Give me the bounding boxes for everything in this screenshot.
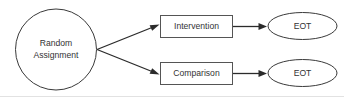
node-eot-comparison: EOT bbox=[268, 60, 337, 87]
node-eot-intervention: EOT bbox=[268, 13, 337, 40]
flow-diagram: Random Assignment Intervention Compariso… bbox=[0, 0, 344, 99]
eot-bottom-label: EOT bbox=[294, 68, 312, 78]
edge-random-to-comparison bbox=[97, 50, 160, 75]
intervention-label: Intervention bbox=[174, 21, 219, 31]
node-intervention: Intervention bbox=[161, 16, 233, 38]
edge-comparison-to-eot bbox=[233, 70, 267, 77]
edge-intervention-to-eot bbox=[233, 23, 267, 30]
arrowhead-icon bbox=[150, 68, 160, 74]
edge-random-to-intervention bbox=[97, 25, 160, 50]
arrowhead-icon bbox=[150, 25, 160, 31]
node-comparison: Comparison bbox=[161, 63, 233, 85]
diagram-canvas: Random Assignment Intervention Compariso… bbox=[0, 0, 344, 99]
eot-top-label: EOT bbox=[294, 21, 312, 31]
arrowhead-icon bbox=[259, 70, 268, 77]
random-assignment-label-line1: Random bbox=[40, 38, 72, 48]
node-random-assignment: Random Assignment bbox=[16, 9, 97, 90]
edge-line bbox=[97, 28, 152, 50]
random-assignment-label-line2: Assignment bbox=[34, 50, 80, 60]
edge-line bbox=[97, 50, 152, 72]
arrowhead-icon bbox=[259, 23, 268, 30]
comparison-label: Comparison bbox=[173, 68, 220, 78]
